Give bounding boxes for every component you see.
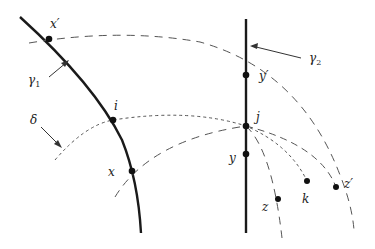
diagram-canvas: x′ γ1 i δ x γ2 y′ j y z k z′ [0, 0, 375, 249]
point-x [129, 168, 136, 175]
point-z-prime [333, 184, 339, 190]
label-y-prime: y′ [258, 69, 269, 83]
label-gamma2: γ2 [309, 51, 321, 67]
label-gamma1: γ1 [28, 73, 40, 89]
point-y-prime [243, 72, 250, 79]
label-y: y [228, 151, 236, 165]
point-z [275, 196, 281, 202]
curve-delta [55, 115, 307, 181]
label-i: i [114, 99, 118, 113]
label-z: z [261, 200, 269, 214]
label-k: k [302, 192, 309, 206]
diagram-svg: x′ γ1 i δ x γ2 y′ j y z k z′ [0, 0, 375, 249]
label-delta: δ [30, 113, 37, 127]
arrow-gamma2 [252, 46, 301, 58]
point-k [304, 178, 310, 184]
point-y [243, 151, 250, 158]
label-j: j [253, 110, 260, 124]
point-j [243, 123, 250, 130]
point-i [110, 117, 117, 124]
label-z-prime: z′ [343, 177, 353, 191]
point-x-prime [46, 36, 53, 43]
label-x: x [108, 165, 115, 179]
curve-gamma1 [20, 17, 141, 233]
label-x-prime: x′ [50, 17, 60, 31]
arrowhead-gamma2-icon [250, 43, 258, 49]
